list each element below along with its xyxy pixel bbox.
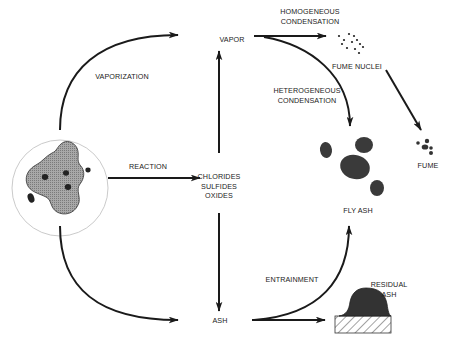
fume-nuclei-icon	[338, 33, 364, 54]
entrainment-arrow	[254, 226, 349, 320]
vaporization-arrow	[60, 35, 178, 130]
residual-text: RESIDUAL	[371, 280, 408, 290]
entrainment-label: ENTRAINMENT	[265, 275, 318, 285]
heterogeneous-condensation-arrow	[264, 37, 350, 126]
nuclei-to-fume-arrow	[386, 70, 421, 130]
chlorides-text: CHLORIDES	[198, 172, 241, 182]
condensation-text: CONDENSATION	[273, 96, 340, 106]
diagram-canvas: VAPOR VAPORIZATION REACTION CHLORIDES SU…	[0, 0, 450, 342]
homogeneous-text: HOMOGENEOUS	[280, 7, 339, 17]
fly-ash-label: FLY ASH	[343, 206, 373, 216]
ash-text: ASH	[371, 290, 408, 300]
vaporization-label: VAPORIZATION	[95, 72, 149, 82]
particle-icon	[12, 140, 108, 236]
vapor-label: VAPOR	[219, 35, 244, 45]
residual-ash-label: RESIDUAL ASH	[371, 280, 408, 299]
heterogeneous-condensation-label: HETEROGENEOUS CONDENSATION	[273, 86, 340, 105]
ash-label: ASH	[212, 316, 227, 326]
condensation-text: CONDENSATION	[280, 17, 339, 27]
particle-to-ash-arrow	[60, 226, 178, 320]
intermediates-label: CHLORIDES SULFIDES OXIDES	[198, 172, 241, 201]
fume-nuclei-label: FUME NUCLEI	[332, 62, 382, 72]
fume-label: FUME	[418, 161, 439, 171]
fly-ash-icon	[319, 137, 384, 196]
fume-icon	[416, 139, 433, 155]
heterogeneous-text: HETEROGENEOUS	[273, 86, 340, 96]
homogeneous-condensation-label: HOMOGENEOUS CONDENSATION	[280, 7, 339, 26]
oxides-text: OXIDES	[198, 191, 241, 201]
sulfides-text: SULFIDES	[198, 182, 241, 192]
reaction-label: REACTION	[129, 162, 167, 172]
